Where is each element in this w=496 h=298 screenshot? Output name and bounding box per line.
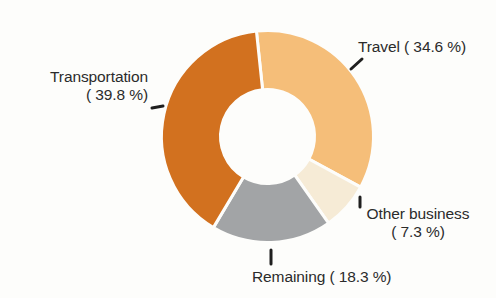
slice-label-other-business-percent: ( 7.3 %) [352,223,484,241]
leader-line-transportation [152,106,163,108]
slice-label-transportation-name: Transportation [24,68,148,86]
slice-label-travel: Travel ( 34.6 %) [358,38,466,56]
slice-label-other-business: Other business ( 7.3 %) [352,205,484,242]
slice-label-remaining-text: Remaining ( 18.3 %) [252,268,391,286]
donut-chart-figure: Travel ( 34.6 %) Transportation ( 39.8 %… [0,0,496,298]
slice-label-travel-text: Travel ( 34.6 %) [358,38,466,56]
slice-label-transportation: Transportation ( 39.8 %) [24,68,148,105]
slice-label-transportation-percent: ( 39.8 %) [24,86,148,104]
slice-label-other-business-name: Other business [352,205,484,223]
slice-label-remaining: Remaining ( 18.3 %) [252,268,391,286]
leader-line-travel [351,59,362,69]
